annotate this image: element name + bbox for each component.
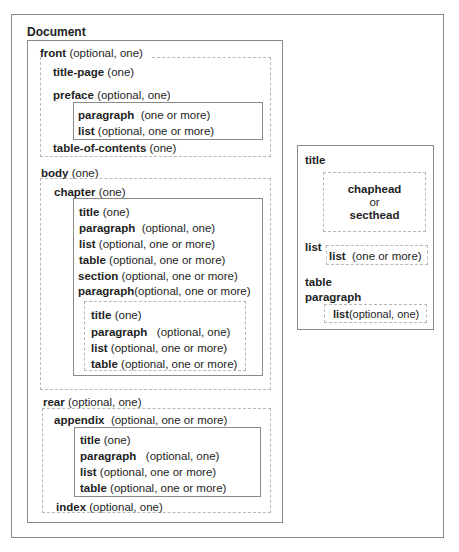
cardinality: (optional, one or more) — [98, 125, 214, 137]
cardinality: (optional, one) — [97, 89, 171, 101]
title-option-chaphead: chaphead — [323, 182, 426, 196]
element-name: list — [91, 342, 108, 354]
document-title: Document — [27, 25, 86, 39]
appendix-label: appendix (optional, one or more) — [54, 413, 227, 427]
front-item-title-page: title-page (one) — [53, 65, 134, 79]
cardinality: (optional, one or more) — [109, 254, 225, 266]
cardinality: (optional, one or more) — [110, 482, 226, 494]
legend-table-label: table — [305, 275, 332, 289]
cardinality: (optional, one or more) — [111, 414, 227, 426]
element-name: table — [91, 358, 118, 370]
cardinality: (optional, one or more) — [111, 342, 227, 354]
chapter-child: section (optional, one or more) — [78, 269, 238, 283]
appendix-child: title (one) — [80, 433, 131, 447]
section-child: table (optional, one or more) — [91, 357, 237, 371]
cardinality: (optional, one) — [68, 396, 142, 408]
cardinality: (one) — [104, 434, 131, 446]
element-name: paragraph — [80, 450, 136, 462]
element-name: table-of-contents — [53, 142, 146, 154]
cardinality: (optional, one or more) — [99, 238, 215, 250]
chapter-child: list (optional, one or more) — [79, 237, 215, 251]
element-name: index — [56, 501, 86, 513]
front-box-top — [152, 57, 271, 58]
cardinality: (one) — [99, 186, 126, 198]
cardinality: (one) — [107, 66, 134, 78]
preface-child-paragraph: paragraph (one or more) — [78, 108, 210, 122]
chapter-child: paragraph(optional, one or more) — [78, 284, 251, 298]
section-child: title (one) — [91, 308, 142, 322]
chapter-child: title (one) — [79, 205, 130, 219]
cardinality: (one) — [149, 142, 176, 154]
chapter-child: table (optional, one or more) — [79, 253, 225, 267]
cardinality: (optional, one or more) — [121, 270, 237, 282]
element-name: title — [79, 206, 99, 218]
appendix-child: list (optional, one or more) — [80, 465, 216, 479]
cardinality: (optional, one or more) — [134, 285, 250, 297]
paragraph-child: list(optional, one) — [333, 307, 419, 321]
element-name: paragraph — [78, 109, 134, 121]
cardinality: (optional, one) — [142, 222, 216, 234]
element-name: list — [78, 125, 95, 137]
appendix-child: paragraph (optional, one) — [80, 449, 219, 463]
element-name: table — [80, 482, 107, 494]
cardinality: (optional, one or more) — [121, 358, 237, 370]
element-name: title — [91, 309, 111, 321]
cardinality: (optional, one or more) — [100, 466, 216, 478]
cardinality: (optional, one) — [89, 501, 163, 513]
element-name: appendix — [54, 414, 104, 426]
section-child: list (optional, one or more) — [91, 341, 227, 355]
cardinality: (optional, one) — [349, 308, 419, 320]
element-name: list — [333, 308, 349, 320]
element-name: list — [79, 238, 96, 250]
rear-label: rear (optional, one) — [43, 395, 141, 409]
cardinality: (optional, one) — [157, 326, 231, 338]
title-option-or: or — [323, 195, 426, 209]
front-item-preface: preface (optional, one) — [53, 88, 171, 102]
chapter-label: chapter (one) — [54, 185, 126, 199]
element-name: list — [80, 466, 97, 478]
cardinality: (optional, one) — [146, 450, 220, 462]
element-name: title-page — [53, 66, 104, 78]
section-child: paragraph (optional, one) — [91, 325, 230, 339]
element-name: table — [79, 254, 106, 266]
element-name: paragraph — [78, 285, 134, 297]
legend-paragraph-label: paragraph — [305, 290, 361, 304]
index-label: index (optional, one) — [56, 500, 163, 514]
preface-child-list: list (optional, one or more) — [78, 124, 214, 138]
element-name: preface — [53, 89, 94, 101]
element-name: section — [78, 270, 118, 282]
cardinality: (one) — [115, 309, 142, 321]
front-item-table-of-contents: table-of-contents (one) — [53, 141, 176, 155]
cardinality: (one or more) — [141, 109, 211, 121]
element-name: paragraph — [91, 326, 147, 338]
title-option-secthead: secthead — [323, 208, 426, 222]
chapter-child: paragraph (optional, one) — [79, 221, 215, 235]
element-name: rear — [43, 396, 65, 408]
element-name: chapter — [54, 186, 96, 198]
cardinality: (one) — [103, 206, 130, 218]
list-child: list (one or more) — [329, 249, 422, 263]
element-name: title — [80, 434, 100, 446]
legend-list-label: list — [305, 240, 322, 254]
legend-title-label: title — [305, 153, 325, 167]
appendix-child: table (optional, one or more) — [80, 481, 226, 495]
element-name: list — [329, 250, 346, 262]
element-name: paragraph — [79, 222, 135, 234]
cardinality: (one or more) — [352, 250, 422, 262]
